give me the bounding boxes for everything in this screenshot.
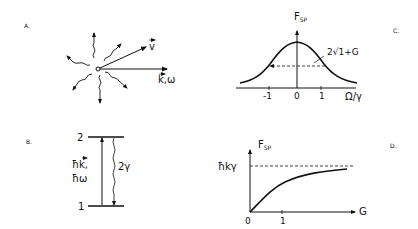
decay-rate-label: 2γ xyxy=(118,162,130,172)
d-x-axis-label: G xyxy=(359,207,367,217)
d-y-axis-label: FSP xyxy=(258,140,271,151)
saturation-curve xyxy=(250,169,347,212)
diagram-canvas xyxy=(0,0,418,229)
panel-c-force-vs-detuning-plot xyxy=(236,31,357,90)
decay-wavy-arrow xyxy=(113,138,115,205)
atom-circle xyxy=(96,67,100,71)
c-x-axis-label: Ω/γ xyxy=(345,92,362,102)
photon-momentum-label: ħk, xyxy=(72,160,88,170)
c-tick-minus1: -1 xyxy=(263,92,272,101)
fwhm-label: 2√1+G xyxy=(327,48,359,57)
wave-vector-label: k,ω xyxy=(158,75,175,85)
c-y-axis-label: FSP xyxy=(294,12,307,23)
upper-level-label: 2 xyxy=(77,133,83,143)
velocity-label: v xyxy=(149,42,155,52)
panel-b-tag: B. xyxy=(26,139,32,145)
d-tick-1: 1 xyxy=(280,217,286,226)
photon-energy-label: ħω xyxy=(72,174,87,184)
panel-c-tag: C. xyxy=(393,28,399,34)
asymptote-label: ħkγ xyxy=(218,162,237,172)
lower-level-label: 1 xyxy=(78,202,84,212)
panel-d-tag: D. xyxy=(390,143,397,149)
c-tick-0: 0 xyxy=(294,92,300,101)
spontaneous-photon-arrows xyxy=(67,33,127,103)
d-tick-0: 0 xyxy=(245,217,251,226)
panel-a-tag: A. xyxy=(24,23,30,29)
c-tick-1: 1 xyxy=(319,92,325,101)
panel-d-force-vs-g-plot xyxy=(250,150,355,214)
